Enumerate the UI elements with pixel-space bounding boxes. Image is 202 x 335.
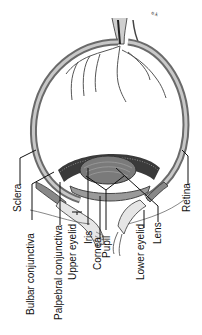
label-lens: Lens [153, 222, 163, 244]
label-pupil: Pupil [102, 236, 112, 258]
label-bulbar-conjunctiva: Bulbar conjunctiva [26, 233, 36, 315]
label-lower-eyelid: Lower eyelid [136, 224, 146, 280]
eye-anatomy-diagram: e.k [0, 0, 202, 335]
label-palpebral-conjunctiva: Palpebral conjunctiva [54, 225, 64, 320]
label-sclera: Sclera [13, 184, 23, 212]
label-retina: Retina [182, 183, 192, 212]
svg-text:e.k: e.k [151, 9, 160, 17]
label-upper-eyelid: Upper eyelid [68, 224, 78, 280]
skin-outline [30, 200, 184, 224]
